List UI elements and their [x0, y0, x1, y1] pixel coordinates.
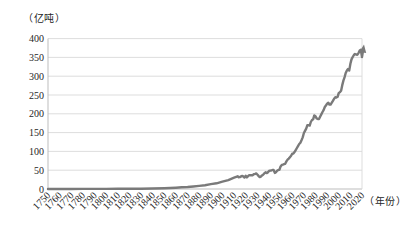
y-axis-unit-label: （亿吨）	[23, 10, 65, 25]
y-tick-label: 50	[34, 165, 44, 176]
y-tick-label: 300	[29, 71, 44, 82]
emissions-line	[48, 50, 363, 190]
y-tick-label: 400	[29, 33, 44, 44]
y-tick-label: 100	[29, 146, 44, 157]
y-tick-label: 350	[29, 52, 44, 63]
y-tick-label: 200	[29, 108, 44, 119]
emissions-line-chart: 0501001502002503003504001750176017701780…	[0, 0, 412, 233]
y-tick-label: 250	[29, 90, 44, 101]
y-tick-label: 150	[29, 127, 44, 138]
x-axis-unit-label: （年份）	[364, 193, 406, 208]
